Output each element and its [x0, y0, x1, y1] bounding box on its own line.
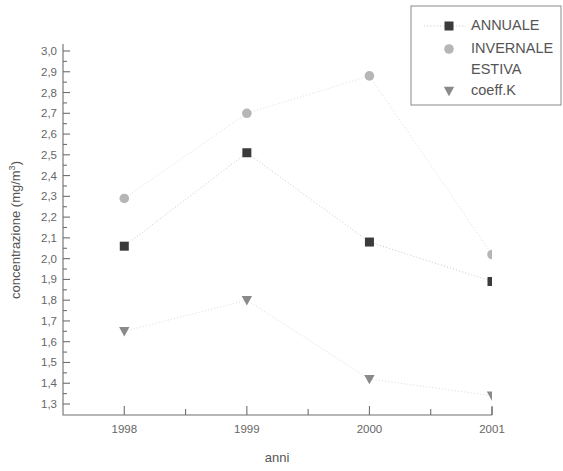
y-tick-label: 1,5 — [41, 356, 57, 368]
x-tick-label: 1998 — [111, 423, 137, 435]
y-tick-label: 2,6 — [41, 128, 57, 140]
y-tick-label: 1,7 — [41, 315, 57, 327]
series-lines — [124, 76, 492, 396]
y-axis-title: concentrazione (mg/m3) — [7, 161, 23, 299]
series-line-annuale — [124, 153, 492, 282]
y-tick-label: 2,5 — [41, 149, 57, 161]
chart-container: 3,02,92,82,72,62,52,42,32,22,12,01,91,81… — [0, 0, 563, 471]
data-point-annuale-1998 — [120, 242, 129, 251]
data-point-coeff-k-1998 — [119, 327, 129, 336]
data-point-invernale-1999 — [242, 108, 252, 118]
legend-item-estiva[interactable]: ESTIVA — [471, 61, 522, 77]
series-markers — [119, 71, 497, 401]
legend-marker-square — [445, 22, 454, 31]
x-axis-title: anni — [265, 450, 290, 465]
y-axis-ticks — [63, 51, 70, 404]
x-axis-ticks — [124, 406, 492, 415]
y-axis-title-main: concentrazione (mg/m — [8, 170, 23, 299]
y-tick-label: 2,2 — [41, 211, 57, 223]
x-tick-label: 1999 — [234, 423, 260, 435]
data-point-annuale-2000 — [365, 238, 374, 247]
data-point-invernale-2000 — [365, 71, 375, 81]
legend[interactable]: ANNUALEINVERNALEESTIVAcoeff.K — [411, 6, 561, 105]
series-group — [119, 71, 497, 401]
legend-label: coeff.K — [471, 82, 516, 98]
data-point-annuale-1999 — [242, 148, 251, 157]
y-tick-label: 2,3 — [41, 190, 57, 202]
y-tick-label: 1,4 — [41, 377, 58, 389]
x-tick-label: 2001 — [479, 423, 505, 435]
y-tick-label: 2,8 — [41, 87, 57, 99]
y-tick-label: 2,1 — [41, 232, 57, 244]
data-point-annuale-2001 — [488, 277, 497, 286]
data-point-invernale-2001 — [487, 250, 497, 260]
y-tick-label: 1,9 — [41, 273, 57, 285]
legend-label: ANNUALE — [471, 17, 540, 33]
data-point-coeff-k-2001 — [487, 391, 497, 400]
y-axis-tick-labels: 3,02,92,82,72,62,52,42,32,22,12,01,91,81… — [41, 45, 58, 410]
y-tick-label: 1,6 — [41, 336, 57, 348]
data-point-invernale-1998 — [119, 194, 129, 204]
x-axis-tick-labels: 1998199920002001 — [111, 423, 504, 435]
y-tick-label: 2,0 — [41, 253, 57, 265]
y-tick-label: 1,8 — [41, 294, 57, 306]
legend-marker-circle — [444, 44, 454, 54]
y-tick-label: 2,4 — [41, 170, 58, 182]
legend-label: INVERNALE — [471, 40, 554, 56]
data-point-coeff-k-1999 — [242, 296, 252, 305]
x-tick-label: 2000 — [357, 423, 383, 435]
line-chart: 3,02,92,82,72,62,52,42,32,22,12,01,91,81… — [0, 0, 563, 471]
y-axis-title-close-paren: ) — [8, 161, 23, 165]
legend-label: ESTIVA — [471, 61, 522, 77]
series-line-coeff-k — [124, 300, 492, 396]
y-tick-label: 2,9 — [41, 66, 57, 78]
y-tick-label: 1,3 — [41, 398, 57, 410]
y-tick-label: 2,7 — [41, 107, 57, 119]
y-axis-title-group: concentrazione (mg/m3) — [7, 161, 23, 299]
y-tick-label: 3,0 — [41, 45, 57, 57]
